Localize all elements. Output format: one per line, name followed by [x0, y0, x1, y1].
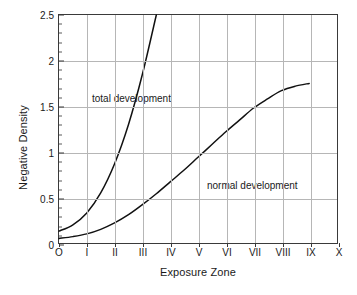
y-tick-minor-mark — [59, 235, 62, 236]
gridline-vertical — [143, 15, 144, 243]
y-tick-minor-mark — [59, 116, 62, 117]
gridline-vertical — [115, 15, 116, 243]
gridline-vertical — [283, 15, 284, 243]
gridline-horizontal — [59, 199, 337, 200]
gridline-horizontal — [59, 61, 337, 62]
y-tick-minor-mark — [59, 24, 62, 25]
y-tick-mark — [59, 15, 64, 16]
plot-area: total development normal development 00.… — [58, 14, 338, 244]
y-tick-label: 2 — [48, 56, 54, 67]
x-tick-label: O — [55, 247, 63, 258]
y-tick-label: 0.5 — [40, 194, 54, 205]
y-tick-minor-mark — [59, 88, 62, 89]
x-tick-label: IV — [166, 247, 175, 258]
x-tick-label: X — [336, 247, 343, 258]
x-tick-label: III — [139, 247, 147, 258]
y-tick-minor-mark — [59, 134, 62, 135]
y-tick-minor-mark — [59, 226, 62, 227]
x-tick-label: V — [196, 247, 203, 258]
x-tick-label: II — [112, 247, 118, 258]
curve-label-total-development: total development — [92, 93, 171, 104]
y-tick-label: 1.5 — [40, 102, 54, 113]
y-axis-title: Negative Density — [12, 0, 34, 295]
gridline-vertical — [311, 15, 312, 243]
x-tick-label: VII — [249, 247, 261, 258]
y-tick-minor-mark — [59, 162, 62, 163]
gridline-vertical — [87, 15, 88, 243]
y-tick-minor-mark — [59, 79, 62, 80]
y-tick-mark — [59, 199, 64, 200]
y-tick-minor-mark — [59, 51, 62, 52]
gridline-vertical — [171, 15, 172, 243]
x-tick-label: I — [86, 247, 89, 258]
gridline-vertical — [255, 15, 256, 243]
gridline-vertical — [227, 15, 228, 243]
y-tick-minor-mark — [59, 97, 62, 98]
y-tick-minor-mark — [59, 189, 62, 190]
gridline-horizontal — [59, 153, 337, 154]
y-tick-mark — [59, 61, 64, 62]
x-axis-title: Exposure Zone — [58, 266, 338, 278]
x-tick-label: VI — [222, 247, 231, 258]
y-tick-minor-mark — [59, 33, 62, 34]
chart-figure: Negative Density total development norma… — [0, 0, 357, 295]
y-tick-label: 2.5 — [40, 10, 54, 21]
gridline-vertical — [199, 15, 200, 243]
y-tick-minor-mark — [59, 143, 62, 144]
x-tick-label: IX — [306, 247, 315, 258]
y-tick-minor-mark — [59, 125, 62, 126]
curve-label-normal-development: normal development — [207, 180, 298, 191]
y-tick-minor-mark — [59, 42, 62, 43]
y-tick-minor-mark — [59, 180, 62, 181]
gridline-horizontal — [59, 107, 337, 108]
y-tick-label: 0 — [48, 240, 54, 251]
curves-layer — [59, 15, 337, 243]
y-tick-minor-mark — [59, 171, 62, 172]
y-tick-minor-mark — [59, 217, 62, 218]
x-tick-label: VIII — [275, 247, 290, 258]
y-tick-label: 1 — [48, 148, 54, 159]
y-tick-mark — [59, 153, 64, 154]
y-tick-minor-mark — [59, 70, 62, 71]
y-tick-minor-mark — [59, 208, 62, 209]
y-tick-mark — [59, 107, 64, 108]
